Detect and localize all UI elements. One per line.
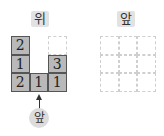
grid-cell bbox=[30, 36, 49, 55]
grid-cell: 1 bbox=[48, 73, 67, 92]
grid-cell bbox=[119, 36, 138, 55]
grid-cell bbox=[100, 73, 119, 92]
top-view-grid: 2 1 3 2 1 1 bbox=[11, 36, 67, 92]
grid-cell bbox=[48, 36, 67, 55]
front-view-label: 앞 bbox=[117, 11, 135, 27]
grid-cell bbox=[137, 36, 156, 55]
grid-cell bbox=[137, 55, 156, 74]
top-view-label: 위 bbox=[31, 11, 49, 27]
grid-cell bbox=[137, 73, 156, 92]
grid-cell bbox=[30, 55, 49, 74]
grid-cell: 2 bbox=[11, 73, 30, 92]
grid-cell: 2 bbox=[11, 36, 30, 55]
grid-cell: 3 bbox=[48, 55, 67, 74]
grid-cell: 1 bbox=[11, 55, 30, 74]
grid-cell bbox=[100, 55, 119, 74]
grid-cell bbox=[119, 73, 138, 92]
front-direction-label: 앞 bbox=[29, 108, 49, 128]
grid-cell bbox=[100, 36, 119, 55]
grid-cell bbox=[119, 55, 138, 74]
grid-cell: 1 bbox=[30, 73, 49, 92]
front-view-answer-grid bbox=[100, 36, 156, 92]
